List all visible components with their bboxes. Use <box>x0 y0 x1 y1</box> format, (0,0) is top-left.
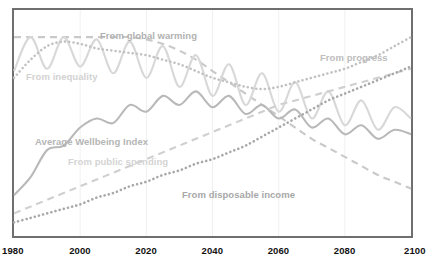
x-axis-tick-1980: 1980 <box>2 245 24 256</box>
wellbeing-index-chart: From global warming From progress From i… <box>0 0 428 267</box>
plot-frame <box>12 8 413 238</box>
x-axis-tick-2000: 2000 <box>69 245 91 256</box>
x-axis-tick-2080: 2080 <box>334 245 356 256</box>
series-label-from-progress: From progress <box>320 52 388 63</box>
series-label-from-public-spending: From public spending <box>68 156 168 167</box>
x-axis-tick-2040: 2040 <box>202 245 224 256</box>
x-axis-tick-2100: 2100 <box>404 245 426 256</box>
series-label-from-global-warming: From global warming <box>100 30 197 41</box>
series-label-from-inequality: From inequality <box>26 71 97 82</box>
x-axis-tick-2020: 2020 <box>135 245 157 256</box>
series-label-from-disposable-income: From disposable income <box>182 189 295 200</box>
x-axis-tick-2060: 2060 <box>268 245 290 256</box>
series-label-average-wellbeing-index: Average Wellbeing Index <box>35 136 148 147</box>
